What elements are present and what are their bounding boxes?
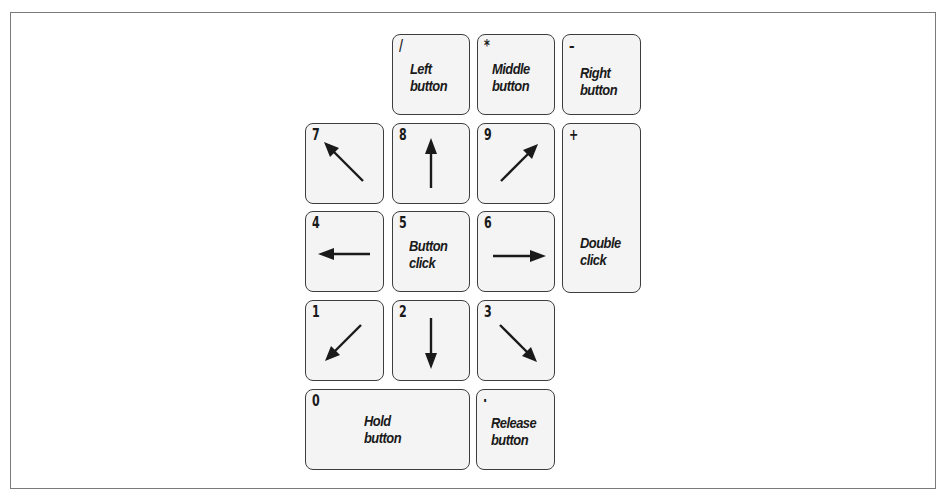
arrow-right-icon (478, 212, 556, 293)
key-one[interactable]: 1 (305, 300, 384, 381)
key-label: Release button (491, 414, 536, 448)
arrow-down-icon (393, 301, 471, 382)
key-four[interactable]: 4 (305, 211, 384, 292)
key-eight[interactable]: 8 (392, 123, 470, 204)
key-symbol: * (484, 37, 490, 55)
key-seven[interactable]: 7 (305, 123, 384, 204)
arrow-left-icon (306, 212, 385, 293)
key-five[interactable]: 5 Button click (392, 211, 470, 292)
arrow-up-right-icon (478, 124, 556, 205)
key-six[interactable]: 6 (477, 211, 555, 292)
key-label: Button click (409, 237, 447, 271)
key-zero[interactable]: 0 Hold button (305, 389, 470, 470)
key-label: Right button (580, 64, 617, 98)
key-label: Double click (580, 234, 621, 268)
diagram-frame (10, 12, 936, 489)
key-symbol: 5 (399, 214, 407, 232)
key-plus[interactable]: + Double click (562, 123, 641, 293)
key-symbol: / (399, 37, 403, 55)
key-divide[interactable]: / Left button (392, 34, 470, 115)
arrow-down-right-icon (478, 301, 556, 382)
key-two[interactable]: 2 (392, 300, 470, 381)
key-nine[interactable]: 9 (477, 123, 555, 204)
key-three[interactable]: 3 (477, 300, 555, 381)
key-multiply[interactable]: * Middle button (477, 34, 555, 115)
key-minus[interactable]: – Right button (562, 34, 641, 115)
arrow-up-icon (393, 124, 471, 205)
arrow-down-left-icon (306, 301, 385, 382)
key-decimal[interactable]: · Release button (476, 389, 555, 470)
key-label: Middle button (492, 60, 530, 94)
key-label: Hold button (364, 412, 401, 446)
key-symbol: · (483, 392, 487, 410)
key-symbol: – (569, 37, 575, 55)
arrow-up-left-icon (306, 124, 385, 205)
key-symbol: 0 (312, 392, 320, 410)
key-symbol: + (569, 126, 578, 144)
key-label: Left button (410, 60, 447, 94)
